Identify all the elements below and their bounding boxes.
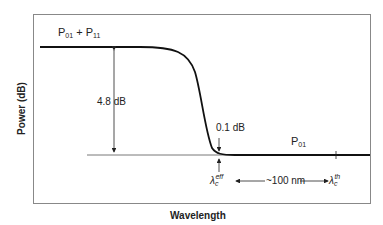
power-curve — [40, 47, 370, 155]
separation-label: ~100 nm — [266, 175, 305, 186]
drop-label: 4.8 dB — [97, 96, 126, 107]
x-axis-label: Wavelength — [170, 210, 226, 221]
lambda-eff-label: λceff — [210, 173, 223, 187]
threshold-label: 0.1 dB — [216, 122, 245, 133]
lower-level-label: P01 — [291, 135, 306, 148]
upper-level-label: P01 + P11 — [58, 26, 100, 39]
lambda-th-label: λcth — [329, 173, 340, 187]
y-axis-label: Power (dB) — [16, 74, 27, 144]
